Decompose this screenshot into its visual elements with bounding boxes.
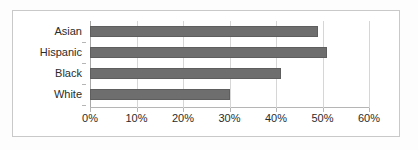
chart-figure: AsianHispanicBlackWhite 0%10%20%30%40%50…: [0, 0, 418, 150]
bar-series: [90, 21, 369, 108]
x-axis-tick-label: 30%: [218, 112, 240, 124]
gridline-60%: [369, 21, 370, 108]
y-axis-label-white: White: [54, 84, 82, 105]
bar-row: [90, 21, 369, 42]
plot-area: [90, 21, 369, 108]
x-axis-tick-label: 60%: [358, 112, 380, 124]
x-axis-tick-label: 20%: [172, 112, 194, 124]
y-tick-mark: [82, 42, 86, 43]
y-tick-mark: [82, 63, 86, 64]
bar-row: [90, 84, 369, 105]
x-axis-tick-label: 0%: [82, 112, 98, 124]
bar-hispanic[interactable]: [90, 47, 327, 58]
bar-row: [90, 63, 369, 84]
y-axis-labels: AsianHispanicBlackWhite: [18, 21, 86, 108]
x-axis-tick-label: 40%: [265, 112, 287, 124]
bar-white[interactable]: [90, 89, 230, 100]
y-axis-label-hispanic: Hispanic: [40, 42, 82, 63]
bar-asian[interactable]: [90, 26, 318, 37]
x-axis-tick-label: 10%: [125, 112, 147, 124]
y-tick-mark: [82, 84, 86, 85]
bar-row: [90, 42, 369, 63]
bar-black[interactable]: [90, 68, 281, 79]
y-axis-label-black: Black: [55, 63, 82, 84]
x-axis-labels: 0%10%20%30%40%50%60%: [90, 112, 369, 128]
y-tick-mark: [82, 105, 86, 106]
x-axis-tick-label: 50%: [311, 112, 333, 124]
y-axis-label-asian: Asian: [54, 21, 82, 42]
